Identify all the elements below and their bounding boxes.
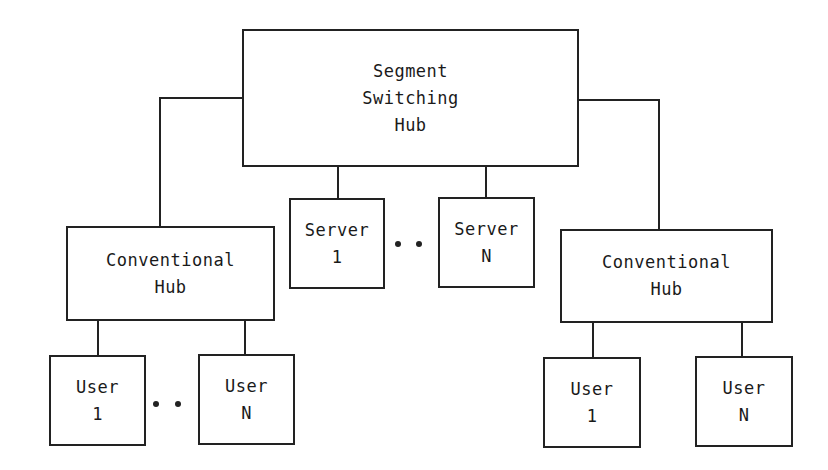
node-label-line: Switching <box>362 85 459 112</box>
node-label-line: User <box>225 373 268 400</box>
server-1-node: Server 1 <box>289 198 385 289</box>
node-label-line: Hub <box>154 274 186 301</box>
node-label-line: Hub <box>394 112 426 139</box>
node-label-line: N <box>481 243 492 270</box>
ellipsis-dot-icon <box>175 401 181 407</box>
node-label-line: 1 <box>332 244 343 271</box>
node-label-line: Hub <box>650 276 682 303</box>
segment-switching-hub-node: Segment Switching Hub <box>242 29 579 167</box>
edge-right-hub-to-user-1 <box>592 321 594 358</box>
node-label-line: N <box>241 400 252 427</box>
node-label-line: User <box>723 375 766 402</box>
edge-left-hub-to-user-n <box>244 319 246 355</box>
node-label-line: Conventional <box>602 249 731 276</box>
ellipsis-dot-icon <box>395 241 401 247</box>
edge-segment-to-right-hub-v <box>658 99 660 230</box>
ellipsis-dot-icon <box>153 401 159 407</box>
node-label-line: N <box>739 402 750 429</box>
node-label-line: User <box>571 376 614 403</box>
node-label-line: Conventional <box>106 247 235 274</box>
server-n-node: Server N <box>438 197 535 288</box>
edge-segment-to-right-hub-h <box>577 99 660 101</box>
edge-segment-to-server-1 <box>337 165 339 199</box>
right-conventional-hub-node: Conventional Hub <box>560 229 773 323</box>
edge-right-hub-to-user-n <box>741 321 743 357</box>
edge-segment-to-server-n <box>485 165 487 198</box>
ellipsis-dot-icon <box>416 241 422 247</box>
edge-segment-to-left-hub-v <box>159 97 161 227</box>
node-label-line: Segment <box>373 58 448 85</box>
node-label-line: 1 <box>92 401 103 428</box>
edge-left-hub-to-user-1 <box>97 319 99 356</box>
node-label-line: User <box>76 374 119 401</box>
node-label-line: Server <box>454 216 518 243</box>
edge-segment-to-left-hub-h <box>160 97 243 99</box>
left-user-1-node: User 1 <box>49 355 146 446</box>
left-user-n-node: User N <box>198 354 295 445</box>
node-label-line: Server <box>305 217 369 244</box>
left-conventional-hub-node: Conventional Hub <box>66 226 275 321</box>
right-user-1-node: User 1 <box>543 357 641 448</box>
node-label-line: 1 <box>587 403 598 430</box>
right-user-n-node: User N <box>695 356 793 447</box>
